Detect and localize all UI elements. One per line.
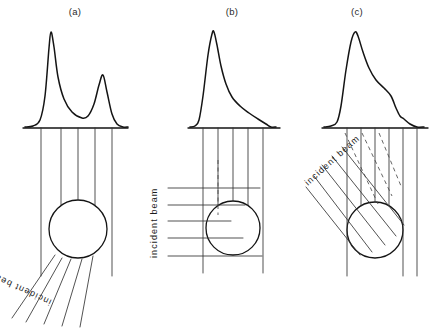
panel-a: (a)incident beam <box>0 6 128 327</box>
incident-ray-c-1 <box>314 176 372 252</box>
incident-ray-dashed-c-2 <box>379 133 401 186</box>
panel-c: (c)incident beam <box>303 6 428 276</box>
incident-ray-a-4 <box>80 256 93 327</box>
incident-beam-label-b: incident beam <box>149 188 159 258</box>
incident-ray-c-4 <box>342 147 404 225</box>
intensity-profile-curve-c <box>324 32 424 128</box>
incident-ray-a-2 <box>44 259 71 324</box>
panel-b: (b)incident beam <box>149 6 280 273</box>
incident-ray-c-2 <box>322 165 385 245</box>
incident-ray-dashed-c-1 <box>362 133 392 196</box>
scattering-figure: (a)incident beam(b)incident beam(c)incid… <box>0 0 436 330</box>
incident-ray-c-3 <box>332 156 396 236</box>
panels-group: (a)incident beam(b)incident beam(c)incid… <box>0 6 428 327</box>
panel-caption-c: (c) <box>351 6 363 17</box>
intensity-profile-curve-a <box>25 32 128 127</box>
specimen-circle-b <box>206 201 260 255</box>
panel-caption-a: (a) <box>69 6 82 17</box>
panel-caption-b: (b) <box>226 6 239 17</box>
incident-ray-a-3 <box>62 259 82 326</box>
intensity-profile-curve-b <box>190 31 276 127</box>
specimen-circle-a <box>49 200 107 258</box>
incident-ray-c-0 <box>306 187 360 255</box>
figure-canvas: (a)incident beam(b)incident beam(c)incid… <box>0 0 436 330</box>
